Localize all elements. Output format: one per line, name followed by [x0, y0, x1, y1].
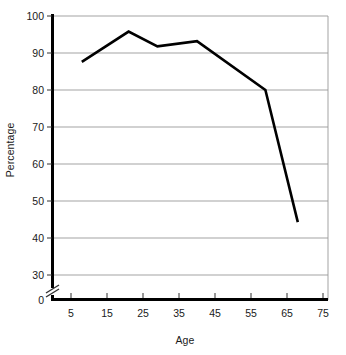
x-tick-label-45: 45 — [209, 307, 221, 319]
x-tick-label-65: 65 — [281, 307, 293, 319]
x-tick-label-25: 25 — [137, 307, 149, 319]
x-tick-labels: 5 15 25 35 45 55 65 75 — [68, 307, 329, 319]
y-tick-label-100: 100 — [26, 10, 44, 22]
x-tick-label-75: 75 — [317, 307, 329, 319]
line-chart-canvas: 100 90 80 70 60 50 40 30 0 5 15 25 35 — [0, 0, 346, 355]
y-tick-label-60: 60 — [32, 158, 44, 170]
y-tick-label-70: 70 — [32, 121, 44, 133]
y-tick-label-40: 40 — [32, 232, 44, 244]
y-tick-label-50: 50 — [32, 195, 44, 207]
x-tick-label-35: 35 — [173, 307, 185, 319]
y-tick-label-30: 30 — [32, 269, 44, 281]
y-tick-label-90: 90 — [32, 47, 44, 59]
plot-area-background — [52, 16, 328, 300]
x-tick-label-55: 55 — [245, 307, 257, 319]
y-tick-label-0: 0 — [38, 294, 44, 306]
y-tick-labels: 100 90 80 70 60 50 40 30 0 — [26, 10, 44, 306]
chart-figure: 100 90 80 70 60 50 40 30 0 5 15 25 35 — [0, 0, 346, 355]
x-tick-label-5: 5 — [68, 307, 74, 319]
x-tick-label-15: 15 — [101, 307, 113, 319]
y-tick-label-80: 80 — [32, 84, 44, 96]
